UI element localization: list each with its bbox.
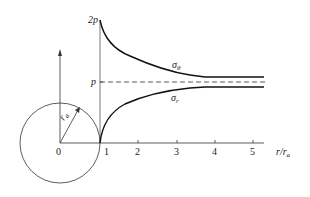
tick-label-4: 4 — [212, 146, 217, 157]
radius-label: ra — [56, 110, 71, 123]
sigma-theta-label: σθ — [172, 59, 181, 72]
tick-label-0: 0 — [56, 146, 61, 157]
radius-arrow-icon — [75, 107, 80, 113]
y-label-2p: 2p — [88, 14, 98, 25]
tick-label-2: 2 — [135, 146, 140, 157]
sigma-r-curve — [100, 87, 264, 143]
stress-distribution-diagram: 2p p 0 1 2 3 4 5 r/ra σθ σr ra — [0, 0, 310, 197]
x-axis-label: r/ra — [276, 146, 291, 159]
tick-label-3: 3 — [174, 146, 179, 157]
sigma-theta-curve — [100, 20, 264, 77]
arrow-head-icon — [58, 49, 62, 56]
tick-label-1: 1 — [104, 146, 109, 157]
y-label-p: p — [90, 76, 96, 87]
sigma-r-label: σr — [171, 92, 179, 105]
tick-label-5: 5 — [250, 146, 255, 157]
